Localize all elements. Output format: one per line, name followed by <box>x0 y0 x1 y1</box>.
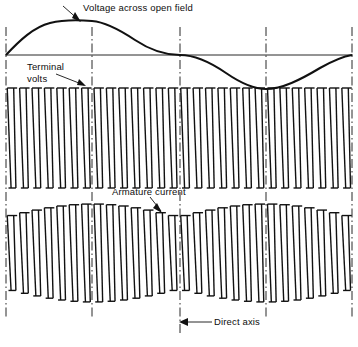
oscillogram-figure: .ink{stroke:#111;fill:none;} .thin{strok… <box>0 0 358 347</box>
label-voltage-across-open-field: Voltage across open field <box>83 2 193 13</box>
terminal-volts-trace <box>7 88 352 188</box>
label-direct-axis: Direct axis <box>214 316 260 327</box>
label-terminal-volts-line1: Terminal <box>27 61 64 72</box>
label-armature-current: Armature current <box>112 186 186 197</box>
armature-current-trace <box>7 204 352 302</box>
label-terminal-volts: Terminal volts <box>27 61 87 84</box>
label-terminal-volts-line2: volts <box>27 73 47 84</box>
direct-axis-label-leader <box>179 318 212 326</box>
